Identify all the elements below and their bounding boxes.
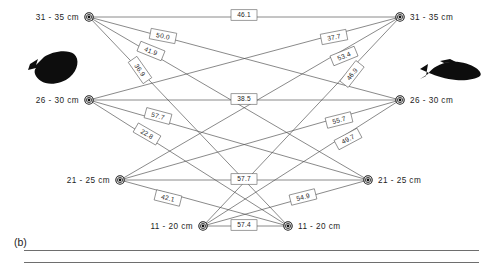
node-label-L1: 31 - 35 cm bbox=[36, 13, 79, 22]
node-L1[interactable]: 31 - 35 cm bbox=[36, 13, 93, 22]
edge-value-text: 57.7 bbox=[237, 175, 251, 182]
node-core-dot bbox=[119, 179, 122, 182]
cod-silhouette-icon bbox=[420, 59, 481, 80]
edge-value-text: 57.4 bbox=[237, 221, 251, 228]
edge-value-badge: 46.1 bbox=[231, 10, 257, 21]
edge-line bbox=[203, 100, 400, 226]
node-label-L2: 26 - 30 cm bbox=[36, 96, 79, 105]
node-label-R4: 11 - 20 cm bbox=[298, 222, 341, 231]
edge-value-badge: 36.9 bbox=[128, 56, 152, 83]
figure-panel: 31 - 35 cm26 - 30 cm21 - 25 cm11 - 20 cm… bbox=[0, 0, 493, 264]
node-core-dot bbox=[88, 16, 91, 19]
edge-value-text: 46.1 bbox=[237, 11, 251, 18]
edge-value-text: 38.5 bbox=[237, 95, 251, 102]
node-R1[interactable]: 31 - 35 cm bbox=[396, 13, 453, 22]
node-core-dot bbox=[202, 225, 205, 228]
edge-value-badge: 42.1 bbox=[154, 190, 182, 206]
node-L2[interactable]: 26 - 30 cm bbox=[36, 96, 93, 105]
panel-letter: (b) bbox=[14, 236, 27, 248]
node-core-dot bbox=[367, 179, 370, 182]
figure-rule-top bbox=[24, 250, 479, 251]
edge-value-badge: 38.5 bbox=[231, 94, 257, 105]
edge-value-badge: 46.9 bbox=[340, 61, 364, 88]
edge-value-badge: 41.9 bbox=[137, 41, 165, 60]
node-core-dot bbox=[287, 225, 290, 228]
node-label-R1: 31 - 35 cm bbox=[410, 13, 453, 22]
edge-line bbox=[89, 100, 368, 180]
flatfish-silhouette-icon bbox=[28, 51, 77, 84]
node-label-L4: 11 - 20 cm bbox=[150, 222, 193, 231]
node-L4[interactable]: 11 - 20 cm bbox=[150, 222, 207, 231]
edge-value-badge: 50.0 bbox=[149, 28, 177, 43]
node-label-L3: 21 - 25 cm bbox=[67, 176, 110, 185]
edge-value-badge: 49.7 bbox=[334, 128, 362, 149]
edge-line bbox=[89, 17, 288, 226]
node-R3[interactable]: 21 - 25 cm bbox=[364, 176, 421, 185]
edge-value-badge: 57.7 bbox=[231, 174, 257, 185]
figure-rule-bottom bbox=[24, 262, 479, 263]
edge-value-badge: 57.7 bbox=[144, 108, 172, 125]
edge-value-badge: 54.9 bbox=[289, 189, 317, 205]
edge-value-badge: 55.7 bbox=[325, 112, 353, 128]
edge-labels-layer: 46.150.041.936.937.738.557.722.853.455.7… bbox=[128, 10, 364, 231]
edge-value-badge: 57.4 bbox=[231, 220, 257, 231]
node-R4[interactable]: 11 - 20 cm bbox=[284, 222, 341, 231]
network-diagram: 31 - 35 cm26 - 30 cm21 - 25 cm11 - 20 cm… bbox=[0, 0, 493, 264]
node-core-dot bbox=[399, 16, 402, 19]
node-label-R3: 21 - 25 cm bbox=[378, 176, 421, 185]
node-R2[interactable]: 26 - 30 cm bbox=[396, 96, 453, 105]
edge-line bbox=[89, 100, 288, 226]
node-core-dot bbox=[88, 99, 91, 102]
node-L3[interactable]: 21 - 25 cm bbox=[67, 176, 124, 185]
edge-value-badge: 37.7 bbox=[320, 29, 348, 44]
node-core-dot bbox=[399, 99, 402, 102]
edge-line bbox=[120, 180, 288, 226]
node-label-R2: 26 - 30 cm bbox=[410, 96, 453, 105]
edge-line bbox=[203, 180, 368, 226]
edge-value-badge: 22.8 bbox=[133, 123, 161, 145]
